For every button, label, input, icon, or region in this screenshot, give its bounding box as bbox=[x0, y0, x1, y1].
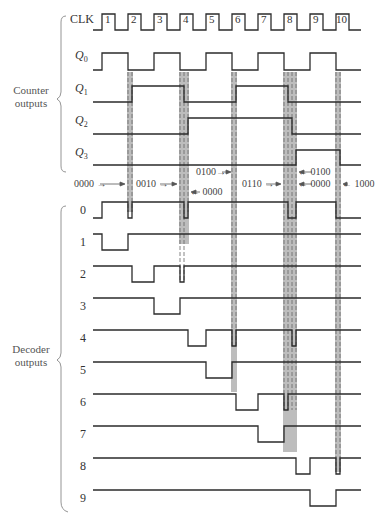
decoder-1-waveform bbox=[93, 234, 361, 250]
clk-pulse-label: 4 bbox=[183, 13, 189, 25]
state-0110: 0110 → bbox=[242, 178, 274, 189]
counter-outputs-label: Counter outputs bbox=[6, 84, 56, 110]
q2-waveform bbox=[93, 118, 361, 134]
q1-label: Q1 bbox=[75, 81, 88, 97]
clk-pulse-label: 10 bbox=[336, 13, 347, 25]
state-0000-b: ← 0000 bbox=[190, 186, 223, 197]
q0-label: Q0 bbox=[75, 48, 88, 64]
decoder-4-waveform bbox=[93, 330, 361, 346]
q0-letter: Q bbox=[75, 48, 84, 62]
clk-pulse-label: 8 bbox=[287, 13, 293, 25]
decoder-3-waveform bbox=[93, 298, 361, 314]
clk-pulse-label: 9 bbox=[313, 13, 319, 25]
clk-pulse-label: 7 bbox=[261, 13, 267, 25]
decoder-label-7: 7 bbox=[80, 427, 86, 442]
decoder-label-1: 1 bbox=[80, 235, 86, 250]
state-1000: ← 1000 bbox=[342, 178, 375, 189]
q1-waveform bbox=[93, 86, 361, 102]
decoder-label-line1: Decoder bbox=[6, 343, 56, 356]
q0-subscript: 0 bbox=[84, 55, 88, 64]
glitch-bands bbox=[127, 72, 341, 472]
clk-pulse-label: 1 bbox=[105, 13, 111, 25]
decoder-7-waveform bbox=[93, 426, 361, 442]
q3-subscript: 3 bbox=[84, 152, 88, 161]
state-0010: 0010 → bbox=[136, 178, 169, 189]
decoder-5-waveform bbox=[93, 362, 361, 378]
decoder-6-waveform bbox=[93, 394, 361, 410]
q3-letter: Q bbox=[75, 145, 84, 159]
decoder-brace bbox=[57, 206, 68, 512]
q1-subscript: 1 bbox=[84, 88, 88, 97]
clk-pulse-label: 2 bbox=[131, 13, 137, 25]
q3-label: Q3 bbox=[75, 145, 88, 161]
q2-label: Q2 bbox=[75, 113, 88, 129]
decoder-label-line2: outputs bbox=[6, 356, 56, 369]
counter-label-line1: Counter bbox=[6, 84, 56, 97]
braces bbox=[57, 16, 68, 512]
decoder-label-6: 6 bbox=[80, 395, 86, 410]
decoder-8-waveform bbox=[93, 458, 361, 474]
decoder-label-2: 2 bbox=[80, 267, 86, 282]
timing-diagram bbox=[0, 0, 388, 524]
q3-waveform bbox=[93, 150, 361, 165]
state-0000-c: ← 0000 bbox=[298, 178, 331, 189]
decoder-label-8: 8 bbox=[80, 459, 86, 474]
q2-letter: Q bbox=[75, 113, 84, 127]
decoder-9-waveform bbox=[93, 490, 361, 506]
state-0100-a: 0100→ bbox=[196, 166, 226, 177]
decoder-label-9: 9 bbox=[80, 491, 86, 506]
clk-pulse-label: 5 bbox=[209, 13, 215, 25]
decoder-0-waveform bbox=[93, 202, 361, 218]
q1-letter: Q bbox=[75, 81, 84, 95]
q0-waveform bbox=[93, 53, 361, 70]
clk-pulse-label: 6 bbox=[235, 13, 241, 25]
decoder-label-3: 3 bbox=[80, 299, 86, 314]
decoder-label-5: 5 bbox=[80, 363, 86, 378]
clk-label: CLK bbox=[70, 12, 94, 27]
decoder-label-4: 4 bbox=[80, 331, 86, 346]
q2-subscript: 2 bbox=[84, 120, 88, 129]
decoder-outputs-label: Decoder outputs bbox=[6, 343, 56, 369]
state-0100-b: ← 0100 bbox=[298, 166, 331, 177]
decoder-label-0: 0 bbox=[80, 203, 86, 218]
state-0000: 0000 → bbox=[74, 178, 107, 189]
counter-brace bbox=[57, 16, 66, 172]
clk-pulse-label: 3 bbox=[157, 13, 163, 25]
decoder-2-waveform bbox=[93, 266, 361, 282]
counter-label-line2: outputs bbox=[6, 97, 56, 110]
